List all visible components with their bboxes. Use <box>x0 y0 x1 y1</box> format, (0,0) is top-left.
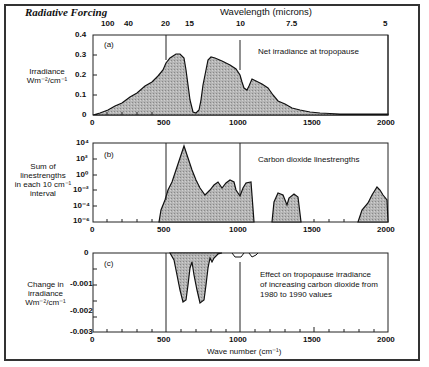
panel-c-ytick: -0.001 <box>70 279 93 288</box>
panel-b-ytick: 10⁻² <box>73 185 89 194</box>
panel-a-ytick: 0.1 <box>75 90 86 99</box>
x-tick: 1500 <box>303 335 321 344</box>
panel-c-ylabel: Change in irradiance Wm⁻²/cm⁻¹ <box>18 280 73 307</box>
x-tick: 1000 <box>229 335 247 344</box>
panel-b-ytick: 10⁴ <box>76 138 89 147</box>
panel-b-tag: (b) <box>104 150 114 159</box>
x-tick: 2000 <box>377 335 395 344</box>
x-tick: 0 <box>90 118 94 127</box>
panel-a-ytick: 0.3 <box>75 50 86 59</box>
panel-b-annotation: Carbon dioxide linestrengths <box>258 155 359 164</box>
panel-b-ytick: 10⁰ <box>76 170 88 179</box>
panel-b-ylabel: Sum of linestrengths in each 10 cm⁻¹ int… <box>8 162 78 198</box>
panel-b-ytick: 10² <box>76 154 88 163</box>
x-tick: 1500 <box>303 225 321 234</box>
panel-a-annotation: Net irradiance at tropopause <box>258 47 359 56</box>
x-tick: 0 <box>90 335 94 344</box>
panel-c-tag: (c) <box>104 259 113 268</box>
x-tick: 1500 <box>303 118 321 127</box>
x-tick: 1000 <box>229 118 247 127</box>
panel-c-ytick: -0.002 <box>70 306 93 315</box>
x-tick: 2000 <box>377 118 395 127</box>
panel-b-ytick: 10⁻⁶ <box>73 216 90 225</box>
x-axis-label: Wave number (cm⁻¹) <box>207 347 281 356</box>
x-tick: 500 <box>157 118 170 127</box>
x-tick: 2000 <box>377 225 395 234</box>
irradiance-change-area <box>170 253 222 303</box>
panel-a-ytick: 0.4 <box>75 30 86 39</box>
panel-a-ytick: 0.2 <box>75 70 86 79</box>
panel-b-ytick: 10⁻⁴ <box>73 201 90 210</box>
panel-a-tag: (a) <box>104 40 114 49</box>
panel-a-ytick: 0 <box>82 110 86 119</box>
x-tick: 1000 <box>229 225 247 234</box>
panel-c-annotation: Effect on tropopause irradiance of incre… <box>260 270 378 300</box>
panel-a-ylabel: Irradiance Wm⁻²/cm⁻¹ <box>22 67 72 85</box>
panel-c-ytick: 0 <box>84 248 88 257</box>
x-tick: 500 <box>157 225 170 234</box>
x-tick: 0 <box>90 225 94 234</box>
x-tick: 500 <box>157 335 170 344</box>
